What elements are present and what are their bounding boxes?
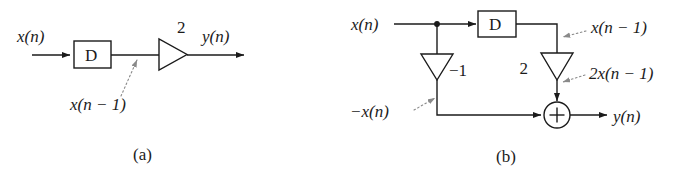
panel-b-gain-neg1-triangle: [421, 54, 453, 80]
panel-a-gain-triangle: [159, 39, 187, 70]
panel-b-gain-2-triangle: [541, 53, 573, 80]
panel-b-leader-xn1: [563, 31, 586, 37]
panel-b-delay-block: [478, 11, 516, 37]
panel-b: [394, 11, 607, 128]
panel-a: [32, 39, 244, 96]
signal-flow-diagram: [0, 0, 690, 179]
panel-b-delay-output-wire: [516, 24, 557, 53]
panel-a-delay-block: [74, 41, 111, 68]
panel-b-leader-2xn1: [563, 75, 585, 82]
panel-b-leader-negxn: [414, 98, 435, 110]
figure-root: x(n) D 2 y(n) x(n − 1) (a) x(n) D −1 2 x…: [0, 0, 690, 179]
panel-a-annotation-leader: [121, 60, 137, 96]
panel-b-gain-neg1-output-wire: [437, 80, 541, 115]
